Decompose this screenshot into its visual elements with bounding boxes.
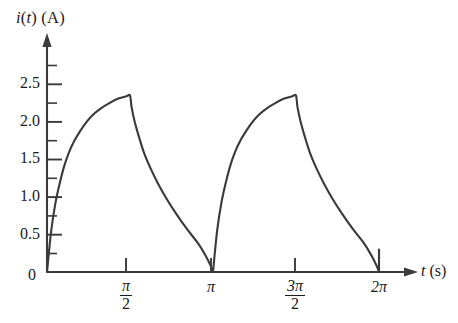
- y-tick-label-1-0: 1.0: [0, 187, 40, 205]
- x-tick-label-2pi: 2π: [358, 278, 400, 296]
- origin-label: 0: [28, 266, 36, 284]
- x-tick-label-pi-over-2: π 2: [106, 278, 146, 313]
- x-tick-numerator: π: [120, 278, 132, 294]
- y-axis-label: i(t) (A): [16, 8, 65, 28]
- chart-canvas: [0, 0, 458, 323]
- x-tick-denominator: 2: [120, 295, 132, 312]
- x-tick-value: 2π: [371, 278, 387, 295]
- current-waveform-figure: i(t) (A) t (s) 0 2.5 2.0 1.5 1.0 0.5 π 2…: [0, 0, 458, 323]
- x-axis-unit: (s): [429, 262, 446, 279]
- y-axis-unit: (A): [41, 8, 65, 27]
- x-tick-label-pi: π: [191, 278, 231, 296]
- waveform-curve: [47, 95, 379, 272]
- x-axis: [47, 267, 418, 276]
- x-axis-label: t (s): [421, 262, 446, 280]
- y-tick-label-1-5: 1.5: [0, 149, 40, 167]
- x-tick-value: π: [207, 278, 215, 295]
- y-tick-label-2-0: 2.0: [0, 112, 40, 130]
- x-tick-numerator: 3π: [285, 278, 305, 294]
- y-tick-label-0-5: 0.5: [0, 225, 40, 243]
- x-ticks: [126, 258, 379, 272]
- x-tick-denominator: 2: [285, 295, 305, 312]
- x-tick-label-3pi-over-2: 3π 2: [273, 278, 317, 313]
- y-tick-label-2-5: 2.5: [0, 74, 40, 92]
